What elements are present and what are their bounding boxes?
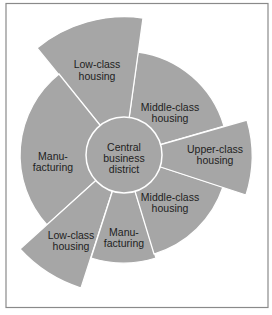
svg-text:district: district: [109, 163, 139, 175]
svg-text:facturing: facturing: [33, 161, 73, 173]
label-manufacturing-left: Manu- facturing: [33, 150, 73, 173]
label-low-class-upper: Low-class housing: [74, 58, 121, 82]
label-low-class-lower: Low-class housing: [48, 229, 95, 252]
label-manufacturing-lower: Manu- facturing: [104, 226, 144, 249]
svg-text:housing: housing: [197, 154, 234, 166]
label-central-business-district: Central business district: [103, 141, 144, 175]
svg-text:housing: housing: [79, 70, 116, 82]
land-use-diagram: Low-class housing Middle-class housing U…: [0, 0, 272, 315]
svg-text:Low-class: Low-class: [74, 58, 121, 70]
svg-text:facturing: facturing: [104, 237, 144, 249]
svg-text:housing: housing: [53, 240, 90, 252]
svg-text:housing: housing: [152, 112, 189, 124]
svg-text:housing: housing: [152, 202, 189, 214]
